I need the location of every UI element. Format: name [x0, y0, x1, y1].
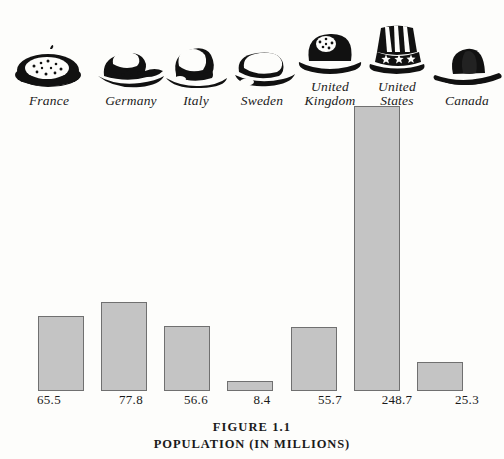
figure-population-bar-chart: France Germany — [0, 0, 504, 459]
category-header-united-kingdom: United Kingdom — [296, 0, 364, 108]
figure-number-label: FIGURE 1.1 — [0, 419, 504, 436]
category-header-france: France — [0, 0, 98, 108]
bar-canada — [417, 362, 463, 391]
fedora-hat-icon — [160, 28, 232, 90]
country-label: United Kingdom — [305, 80, 356, 108]
value-label-italy: 56.6 — [164, 392, 228, 408]
bar-united-states — [354, 106, 400, 391]
bowler-hat-icon — [295, 14, 365, 76]
country-header-row: France Germany — [0, 0, 504, 108]
bar-germany — [101, 302, 147, 391]
value-label-france: 65.5 — [0, 392, 98, 408]
value-label-united-states: 248.7 — [364, 392, 430, 408]
bar-sweden — [227, 381, 273, 391]
bars-plot-area — [0, 105, 504, 391]
flat-cap-hat-icon — [225, 28, 299, 90]
mountie-hat-icon — [429, 28, 504, 90]
value-label-row: 65.5 77.8 56.6 8.4 55.7 248.7 25.3 — [0, 392, 504, 412]
category-header-sweden: Sweden — [228, 0, 296, 108]
country-label: United States — [378, 80, 416, 108]
value-label-united-kingdom: 55.7 — [296, 392, 364, 408]
category-header-united-states: United States — [364, 0, 430, 108]
value-label-sweden: 8.4 — [228, 392, 296, 408]
beret-hat-icon — [12, 28, 86, 90]
category-header-germany: Germany — [98, 0, 164, 108]
value-label-germany: 77.8 — [98, 392, 164, 408]
value-label-canada: 25.3 — [430, 392, 504, 408]
uncle-sam-top-hat-icon — [366, 14, 428, 76]
figure-title-label: POPULATION (IN MILLIONS) — [0, 436, 504, 453]
category-header-canada: Canada — [430, 0, 504, 108]
figure-caption: FIGURE 1.1 POPULATION (IN MILLIONS) — [0, 419, 504, 453]
category-header-italy: Italy — [164, 0, 228, 108]
bar-united-kingdom — [291, 327, 337, 391]
tyrolean-hat-icon — [92, 28, 170, 90]
bar-france — [38, 316, 84, 391]
bar-italy — [164, 326, 210, 391]
